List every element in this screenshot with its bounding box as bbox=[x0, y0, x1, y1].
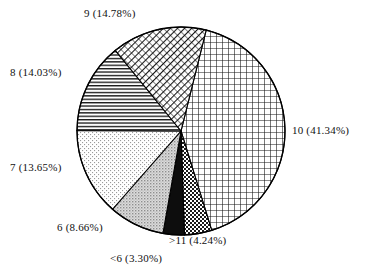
pie-slices-group bbox=[77, 27, 285, 235]
pie-label-lt6: <6 (3.30%) bbox=[110, 252, 162, 264]
pie-label-6: 6 (8.66%) bbox=[57, 221, 103, 233]
pie-label-gt11: >11 (4.24%) bbox=[169, 234, 227, 246]
pie-label-8: 8 (14.03%) bbox=[10, 66, 62, 78]
pie-label-9: 9 (14.78%) bbox=[84, 7, 136, 19]
pie-chart-graphic bbox=[0, 0, 368, 273]
pie-label-10: 10 (41.34%) bbox=[292, 124, 349, 136]
pie-label-7: 7 (13.65%) bbox=[10, 161, 62, 173]
pie-chart-figure: 10 (41.34%) 9 (14.78%) 8 (14.03%) 7 (13.… bbox=[0, 0, 368, 273]
